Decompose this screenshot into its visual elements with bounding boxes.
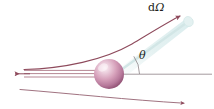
solid-angle-omega-text: Ω [155, 1, 164, 14]
diagram-canvas [0, 0, 214, 109]
cone-edge-upper [121, 21, 189, 70]
solid-angle-label: dΩ [148, 2, 165, 13]
lower-trajectory [20, 90, 184, 104]
scattering-diagram: dΩ θ [0, 0, 214, 109]
target-nucleus [94, 59, 124, 89]
solid-angle-cone [120, 15, 195, 76]
scattering-angle-label: θ [139, 50, 146, 61]
incident-beam [15, 70, 100, 77]
sphere-body [94, 59, 124, 89]
